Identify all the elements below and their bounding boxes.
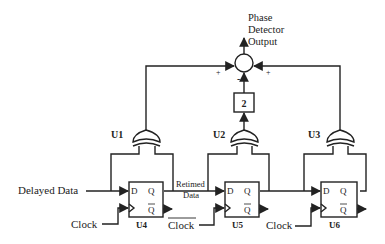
retimed-data-label: Retimed Data	[176, 179, 206, 200]
delayed-data-label: Delayed Data	[18, 184, 78, 196]
u4-clock-wire	[102, 208, 128, 224]
u1-to-summer-wire	[146, 66, 234, 132]
flip-flop-u6: D Q Q U6	[321, 182, 357, 230]
u6-clock-wire	[295, 208, 320, 226]
svg-text:U5: U5	[232, 220, 243, 230]
minus-sign: -	[237, 73, 240, 84]
svg-text:Output: Output	[248, 36, 277, 47]
svg-text:U1: U1	[111, 129, 123, 140]
svg-text:U6: U6	[329, 220, 340, 230]
svg-text:U3: U3	[308, 129, 320, 140]
svg-text:U4: U4	[136, 220, 147, 230]
svg-text:D: D	[227, 186, 234, 196]
plus-sign-right: +	[266, 68, 271, 77]
clock-label-u6: Clock	[266, 219, 293, 231]
xor-gate-u3: U3	[308, 129, 354, 146]
svg-text:Data: Data	[183, 190, 199, 200]
xor-gate-u1: U1	[111, 129, 160, 146]
flip-flop-u5: D Q Q U5	[225, 182, 259, 230]
svg-text:Q: Q	[244, 205, 251, 215]
svg-text:Q: Q	[148, 186, 155, 196]
svg-text:Detector: Detector	[248, 24, 285, 35]
clock-bar-label-u5: Clock	[168, 219, 195, 231]
output-label: Phase Detector Output	[248, 12, 285, 47]
svg-text:D: D	[131, 186, 138, 196]
svg-text:Q: Q	[148, 205, 155, 215]
plus-sign-left: +	[216, 68, 221, 77]
svg-text:Q: Q	[340, 205, 347, 215]
svg-text:Q: Q	[244, 186, 251, 196]
xor-gate-u2: U2	[213, 129, 258, 146]
flip-flop-u4: D Q Q U4	[129, 182, 163, 230]
svg-text:U2: U2	[213, 129, 225, 140]
u5-clock-wire	[199, 208, 224, 225]
summing-junction	[235, 54, 253, 72]
gain-label: 2	[242, 98, 247, 109]
svg-text:Retimed: Retimed	[176, 179, 206, 189]
svg-text:D: D	[323, 186, 330, 196]
svg-text:Phase: Phase	[248, 12, 273, 23]
clock-label-u4: Clock	[71, 218, 98, 230]
svg-text:Q: Q	[340, 186, 347, 196]
phase-detector-diagram: Phase Detector Output + + - 2 U1 U2 U3 D…	[0, 0, 385, 244]
